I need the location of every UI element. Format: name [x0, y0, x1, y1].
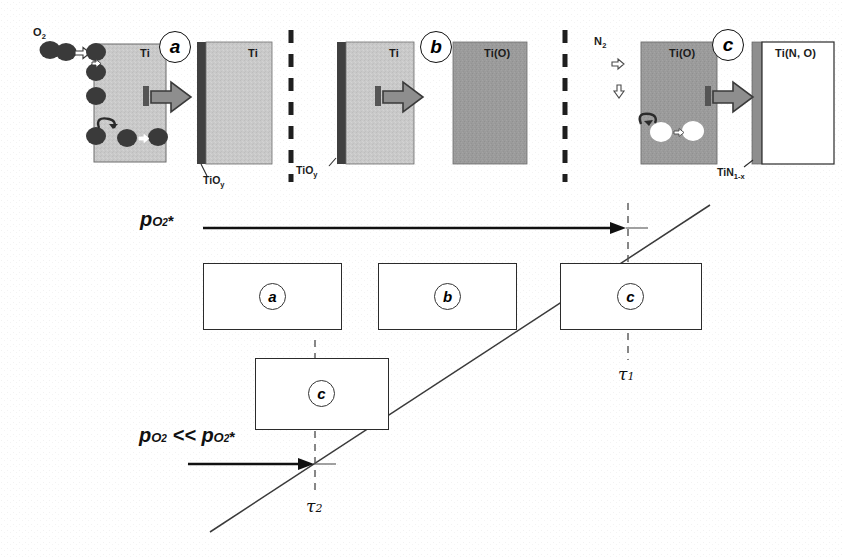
- panel-c-right-block-label: Ti(N, O): [775, 48, 816, 59]
- panel-b-left-block-label: Ti: [389, 48, 399, 59]
- panel-c-gas-label: N2: [594, 36, 607, 50]
- panel-b-interface-label: TiOy: [296, 165, 317, 179]
- timeline-box-b-letter: b: [434, 283, 461, 310]
- panel-c-left-block-label: Ti(O): [669, 48, 695, 59]
- tau2-label: τ2: [306, 496, 322, 516]
- panel-c-letter: c: [712, 29, 744, 61]
- upper-pressure-label: pO2*: [140, 208, 174, 231]
- timeline-box-a-letter: a: [259, 283, 286, 310]
- panel-a-left-block-label: Ti: [140, 48, 150, 59]
- lower-pressure-label: pO2 << pO2*: [139, 424, 235, 447]
- panel-b-letter: b: [420, 31, 452, 63]
- panel-c-interface-label: TiN1-x: [717, 167, 745, 181]
- timeline-box-c-upper-letter: c: [617, 283, 644, 310]
- tau1-label: τ1: [618, 364, 634, 384]
- panel-a-right-block-label: Ti: [248, 48, 258, 59]
- panel-b-right-block-label: Ti(O): [484, 48, 510, 59]
- panel-a-letter: a: [159, 31, 191, 63]
- panel-a-interface-label: TiOy: [203, 175, 224, 189]
- figure-canvas: O2 Ti Ti TiOy a Ti Ti(O) TiOy b N2 Ti(O)…: [0, 0, 842, 559]
- panel-a-gas-label: O2: [33, 27, 46, 41]
- timeline-box-c-lower-letter: c: [308, 380, 335, 407]
